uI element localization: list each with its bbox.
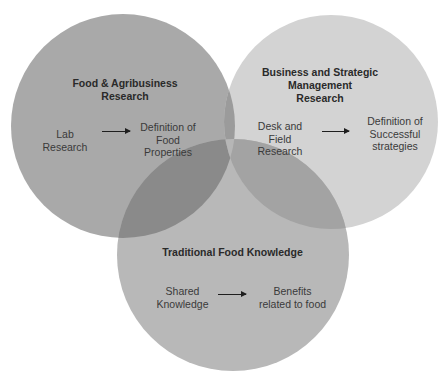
label-line: Food [128, 134, 208, 147]
arrow-right-icon [218, 294, 246, 295]
label-line: Shared [150, 285, 215, 298]
label-line: Successful [355, 128, 435, 141]
label-line: Definition of [355, 115, 435, 128]
title-line: Research [255, 92, 385, 105]
traditional-food-title: Traditional Food Knowledge [150, 246, 315, 259]
label-line: Definition of [128, 121, 208, 134]
label-line: Field [250, 133, 310, 146]
title-line: Management [255, 79, 385, 92]
label-line: Lab [30, 128, 100, 141]
venn-diagram [0, 0, 447, 377]
food-properties-label: Definition of Food Properties [128, 121, 208, 159]
food-agribusiness-title: Food & Agribusiness Research [55, 77, 195, 103]
desk-field-research-label: Desk and Field Research [250, 120, 310, 158]
arrow-right-icon [322, 131, 349, 132]
title-line: Food & Agribusiness [55, 77, 195, 90]
label-line: strategies [355, 140, 435, 153]
label-line: Benefits [250, 285, 335, 298]
label-line: Knowledge [150, 298, 215, 311]
label-line: related to food [250, 298, 335, 311]
label-line: Desk and [250, 120, 310, 133]
label-line: Properties [128, 146, 208, 159]
business-strategic-title: Business and Strategic Management Resear… [255, 66, 385, 105]
title-line: Research [55, 90, 195, 103]
shared-knowledge-label: Shared Knowledge [150, 285, 215, 310]
lab-research-label: Lab Research [30, 128, 100, 153]
title-line: Business and Strategic [255, 66, 385, 79]
successful-strategies-label: Definition of Successful strategies [355, 115, 435, 153]
arrow-right-icon [102, 131, 130, 132]
benefits-related-to-food-label: Benefits related to food [250, 285, 335, 310]
title-line: Traditional Food Knowledge [150, 246, 315, 259]
label-line: Research [30, 141, 100, 154]
label-line: Research [250, 145, 310, 158]
